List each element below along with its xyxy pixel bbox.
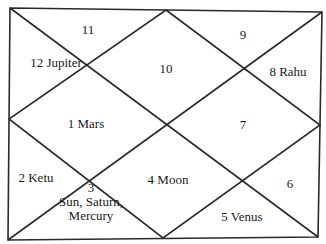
chart-grid xyxy=(0,0,326,244)
house-3-planets-line1: Sun, Saturn, xyxy=(59,195,123,209)
kundli-chart: 11 12 Jupiter 10 9 8 Rahu 1 Mars 7 2 Ket… xyxy=(0,0,326,244)
house-3-sign: 3 xyxy=(59,181,123,195)
house-12-label: 12 Jupiter xyxy=(30,56,82,70)
house-3-planets-line2: Mercury xyxy=(59,209,123,223)
house-6-label: 6 xyxy=(287,177,294,191)
house-7-label: 7 xyxy=(240,118,247,132)
house-3-label: 3 Sun, Saturn, Mercury xyxy=(59,181,123,223)
house-5-label: 5 Venus xyxy=(221,210,262,224)
house-1-label: 1 Mars xyxy=(68,117,104,131)
house-9-label: 9 xyxy=(240,28,247,42)
diagonal-tl-br xyxy=(10,8,318,237)
house-8-label: 8 Rahu xyxy=(269,65,306,79)
house-10-label: 10 xyxy=(160,62,173,76)
house-11-label: 11 xyxy=(82,23,95,37)
house-2-label: 2 Ketu xyxy=(18,171,53,185)
house-4-label: 4 Moon xyxy=(148,173,189,187)
